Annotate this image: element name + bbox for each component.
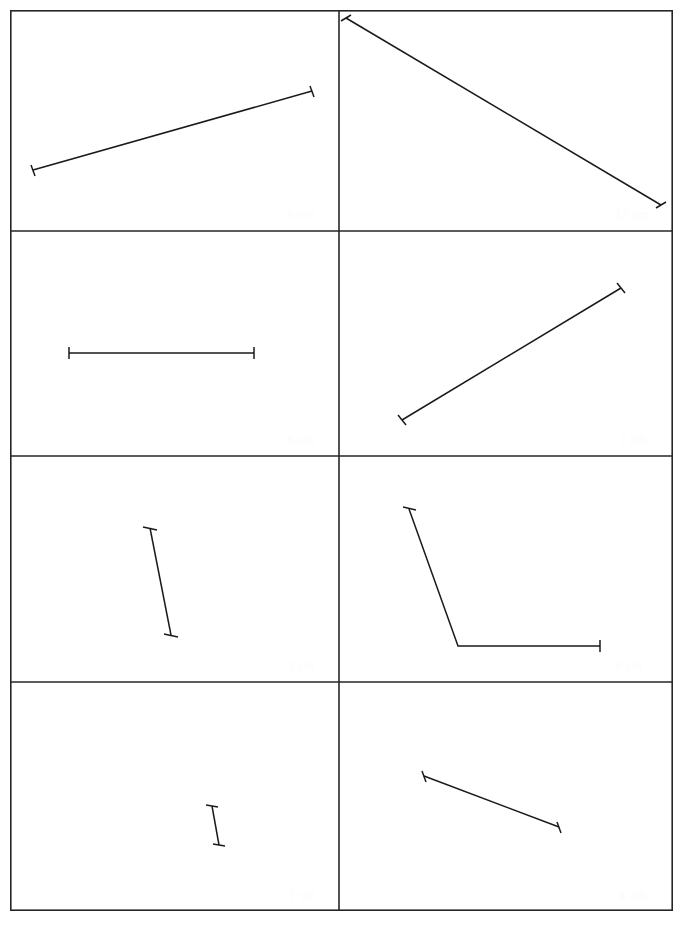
segment-end-tick-start	[206, 805, 218, 807]
segment-line	[402, 288, 621, 420]
segment-end-tick-end	[557, 822, 561, 833]
segment-polyline	[409, 509, 600, 646]
cell-label-3: 5 cm	[287, 433, 314, 447]
worksheet-grid	[10, 10, 673, 911]
segment-cell-2	[341, 15, 666, 208]
worksheet-page: 8 cm 12 cm 5 cm 7 cm 3 cm 8 cm 1 cm 4 cm	[10, 10, 673, 911]
segment-cell-3	[69, 347, 254, 359]
cell-label-5: 3 cm	[287, 659, 314, 673]
segment-line	[33, 91, 312, 170]
segment-line	[150, 528, 171, 635]
segment-end-tick-start	[398, 415, 406, 425]
segment-end-tick-end	[617, 283, 625, 293]
cell-label-4: 7 cm	[619, 433, 646, 447]
segment-end-tick-end	[213, 844, 225, 846]
cell-label-2: 12 cm	[615, 208, 649, 222]
segment-line	[424, 776, 559, 827]
grid-outer-border	[11, 11, 672, 910]
cell-label-6: 8 cm	[615, 659, 642, 673]
cell-label-8: 4 cm	[619, 889, 646, 903]
segment-cell-6	[403, 507, 600, 652]
grid-borders	[10, 10, 673, 911]
segment-cell-7	[206, 805, 225, 846]
segment-line	[212, 806, 219, 845]
segment-end-tick-start	[31, 165, 35, 176]
segment-cell-5	[143, 527, 178, 637]
segment-line	[346, 18, 661, 205]
cell-label-7: 1 cm	[289, 889, 316, 903]
segment-cell-1	[31, 86, 314, 176]
segment-cell-8	[422, 771, 561, 833]
segment-cell-4	[398, 283, 625, 425]
cell-label-1: 8 cm	[287, 208, 314, 222]
